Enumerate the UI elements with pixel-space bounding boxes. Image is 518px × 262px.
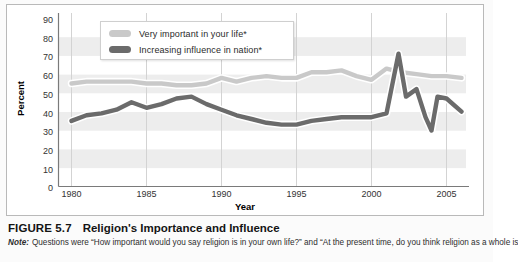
figure-caption: FIGURE 5.7Religion's Importance and Infl… (8, 222, 487, 248)
x-tick-1990: 1990 (205, 189, 239, 199)
legend-item-increasing-influence: Increasing influence in nation* (109, 42, 287, 57)
y-tick-30: 30 (33, 127, 53, 137)
y-tick-80: 80 (33, 34, 53, 44)
y-axis-title: Percent (15, 69, 26, 129)
y-tick-0: 0 (33, 183, 53, 193)
x-axis-title: Year (7, 201, 483, 212)
chart-legend: Very important in your life* Increasing … (100, 21, 294, 60)
figure-title-line: FIGURE 5.7Religion's Importance and Infl… (8, 222, 487, 234)
x-tick-1995: 1995 (280, 189, 314, 199)
legend-swatch-icon-dark (109, 46, 131, 53)
x-tick-2005: 2005 (430, 189, 464, 199)
figure-number: FIGURE 5.7 (8, 222, 72, 234)
y-tick-90: 90 (33, 15, 53, 25)
y-tick-10: 10 (33, 165, 53, 175)
figure-note: Note:Questions were “How important would… (8, 238, 487, 248)
x-tick-2000: 2000 (355, 189, 389, 199)
y-tick-20: 20 (33, 146, 53, 156)
legend-item-very-important: Very important in your life* (109, 26, 287, 41)
x-tick-1985: 1985 (130, 189, 164, 199)
y-tick-40: 40 (33, 109, 53, 119)
legend-label-increasing-influence: Increasing influence in nation* (139, 45, 262, 55)
chart-frame: 90 80 70 60 50 40 30 20 10 0 1980 1985 1… (6, 4, 484, 216)
legend-label-very-important: Very important in your life* (139, 29, 247, 39)
y-tick-70: 70 (33, 52, 53, 62)
figure-note-text: Questions were “How important would you … (32, 238, 518, 247)
y-tick-60: 60 (33, 71, 53, 81)
figure-title: Religion's Importance and Influence (83, 222, 280, 234)
legend-swatch-icon-light (109, 30, 131, 37)
x-tick-1980: 1980 (55, 189, 89, 199)
y-tick-50: 50 (33, 90, 53, 100)
figure-note-label: Note: (8, 238, 29, 247)
